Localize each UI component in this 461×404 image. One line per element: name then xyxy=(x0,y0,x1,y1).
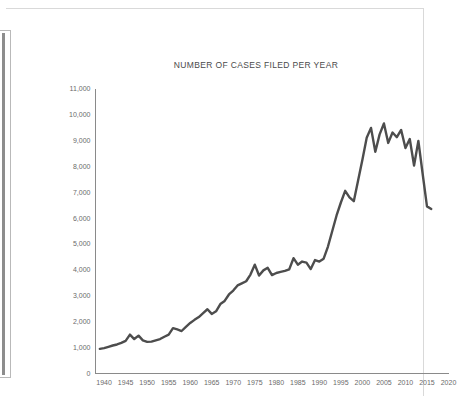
x-tick-1995: 1995 xyxy=(333,379,349,386)
x-tick-1955: 1955 xyxy=(161,379,177,386)
x-tick-1970: 1970 xyxy=(225,379,241,386)
x-tick-1960: 1960 xyxy=(182,379,198,386)
y-tick-3000: 3,000 xyxy=(73,292,91,299)
y-tick-4000: 4,000 xyxy=(73,266,91,273)
x-axis-tick-labels: 1940194519501955196019651970197519801985… xyxy=(96,379,456,386)
y-tick-7000: 7,000 xyxy=(73,189,91,196)
x-tick-2015: 2015 xyxy=(419,379,435,386)
y-axis-tick-labels: 01,0002,0003,0004,0005,0006,0007,0008,00… xyxy=(69,85,91,377)
x-tick-2000: 2000 xyxy=(355,379,371,386)
y-tick-0: 0 xyxy=(87,370,91,377)
x-tick-1975: 1975 xyxy=(247,379,263,386)
y-tick-9000: 9,000 xyxy=(73,137,91,144)
x-tick-1965: 1965 xyxy=(204,379,220,386)
x-tick-2010: 2010 xyxy=(398,379,414,386)
y-tick-10000: 10,000 xyxy=(69,111,91,118)
y-tick-2000: 2,000 xyxy=(73,318,91,325)
x-tick-1980: 1980 xyxy=(269,379,285,386)
x-tick-1945: 1945 xyxy=(118,379,134,386)
chart-plot-area: 01,0002,0003,0004,0005,0006,0007,0008,00… xyxy=(40,16,461,404)
x-tick-2005: 2005 xyxy=(376,379,392,386)
cases-filed-series-line xyxy=(100,123,431,348)
y-tick-1000: 1,000 xyxy=(73,344,91,351)
binding-margin-bar xyxy=(0,30,11,378)
x-tick-1990: 1990 xyxy=(312,379,328,386)
y-tick-11000: 11,000 xyxy=(70,85,91,92)
y-tick-8000: 8,000 xyxy=(73,163,91,170)
x-tick-2020: 2020 xyxy=(441,379,457,386)
cases-filed-line-chart: NUMBER OF CASES FILED PER YEAR 01,0002,0… xyxy=(40,16,461,404)
x-tick-1950: 1950 xyxy=(139,379,155,386)
y-tick-5000: 5,000 xyxy=(73,240,91,247)
y-tick-6000: 6,000 xyxy=(73,215,91,222)
x-tick-1940: 1940 xyxy=(96,379,112,386)
x-tick-1985: 1985 xyxy=(290,379,306,386)
